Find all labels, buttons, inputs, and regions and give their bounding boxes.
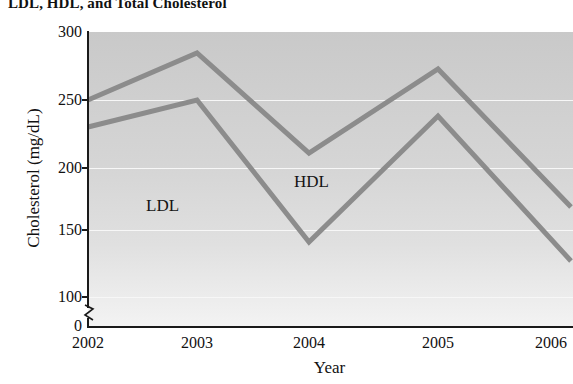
x-tick-2003: 2003 xyxy=(181,334,213,352)
y-tick-0: 0 xyxy=(36,318,82,334)
x-tick-2002: 2002 xyxy=(72,334,104,352)
y-tick-mark-200 xyxy=(82,167,89,169)
annotation-ldl: LDL xyxy=(146,196,179,216)
y-axis-title: Cholesterol (mg/dL) xyxy=(24,38,44,318)
x-axis-title-text: Year xyxy=(314,358,345,377)
chart-root: LDL, HDL, and Total Cholesterol LDL HDL … xyxy=(0,0,573,384)
x-tick-2005: 2005 xyxy=(422,334,454,352)
x-tick-2004: 2004 xyxy=(293,334,325,352)
y-axis-line xyxy=(87,31,89,308)
y-tick-mark-250 xyxy=(82,99,89,101)
x-axis-line xyxy=(87,326,573,328)
annotation-hdl: HDL xyxy=(294,172,329,192)
series-ldl-line xyxy=(88,100,571,261)
y-tick-mark-150 xyxy=(82,229,89,231)
x-tick-2006: 2006 xyxy=(535,334,567,352)
y-tick-mark-100 xyxy=(82,296,89,298)
axis-break-icon xyxy=(82,303,98,323)
x-axis-title: Year xyxy=(0,358,573,378)
